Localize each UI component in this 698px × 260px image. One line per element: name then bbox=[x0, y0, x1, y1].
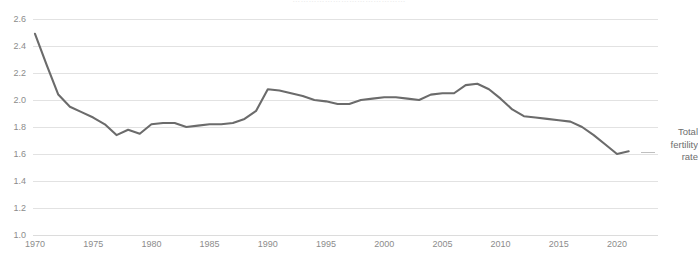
chart-page: …………………………………… 1.01.21.41.61.82.02.22.42… bbox=[0, 0, 698, 260]
legend-label-line-2: fertility bbox=[657, 139, 698, 152]
series-plot-area bbox=[0, 0, 698, 260]
legend-label-line-1: Total bbox=[657, 126, 698, 139]
legend-total-fertility-rate: Total fertility rate bbox=[657, 126, 698, 164]
line-chart: 1.01.21.41.61.82.02.22.42.6 197019751980… bbox=[0, 0, 698, 260]
series-line-total-fertility-rate bbox=[35, 34, 629, 154]
legend-connector-line bbox=[641, 152, 655, 153]
legend-label-line-3: rate bbox=[657, 151, 698, 164]
